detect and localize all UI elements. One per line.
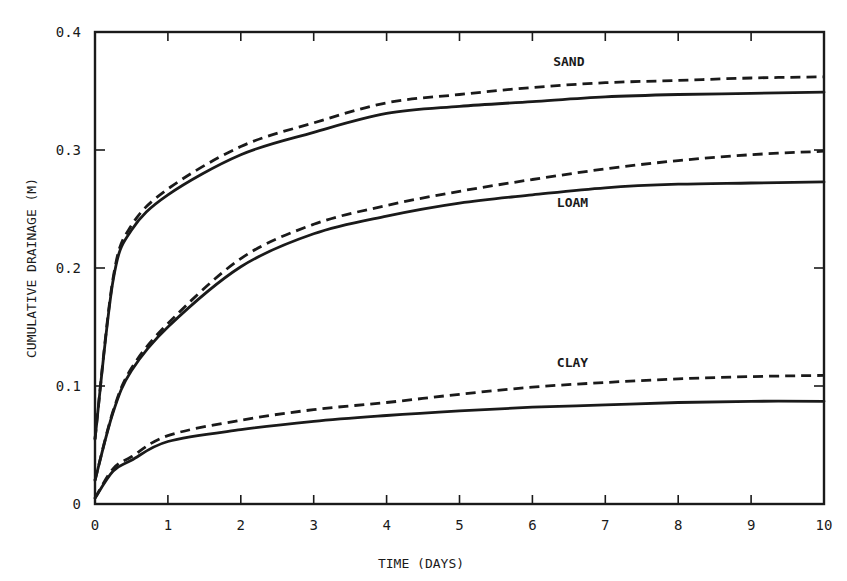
plot-frame <box>95 32 824 504</box>
y-tick-labels: 00.10.20.30.4 <box>56 24 81 512</box>
y-ticks <box>95 150 824 386</box>
x-ticks <box>168 32 751 504</box>
y-axis-title: CUMULATIVE DRAINAGE (M) <box>24 178 39 358</box>
drainage-chart: 012345678910 00.10.20.30.4 SANDLOAMCLAY … <box>0 0 847 581</box>
x-tick-label: 7 <box>601 517 609 533</box>
x-tick-label: 8 <box>674 517 682 533</box>
curves-group <box>95 77 824 498</box>
x-axis-title: TIME (DAYS) <box>378 556 464 571</box>
clay-label: CLAY <box>557 355 588 370</box>
x-tick-label: 5 <box>455 517 463 533</box>
clay-dashed-curve <box>95 375 824 498</box>
x-tick-label: 9 <box>747 517 755 533</box>
y-tick-label: 0.3 <box>56 142 81 158</box>
loam-dashed-curve <box>95 151 824 480</box>
x-tick-label: 3 <box>309 517 317 533</box>
x-tick-label: 6 <box>528 517 536 533</box>
x-tick-label: 2 <box>237 517 245 533</box>
x-tick-label: 10 <box>816 517 833 533</box>
loam-label: LOAM <box>557 195 588 210</box>
x-tick-label: 1 <box>164 517 172 533</box>
x-tick-label: 4 <box>382 517 390 533</box>
y-tick-label: 0.1 <box>56 378 81 394</box>
sand-label: SAND <box>553 54 584 69</box>
x-tick-labels: 012345678910 <box>91 517 833 533</box>
y-tick-label: 0.4 <box>56 24 81 40</box>
sand-solid-curve <box>95 92 824 439</box>
sand-dashed-curve <box>95 77 824 439</box>
y-tick-label: 0.2 <box>56 260 81 276</box>
x-tick-label: 0 <box>91 517 99 533</box>
y-tick-label: 0 <box>73 496 81 512</box>
series-labels: SANDLOAMCLAY <box>553 54 588 370</box>
clay-solid-curve <box>95 401 824 498</box>
